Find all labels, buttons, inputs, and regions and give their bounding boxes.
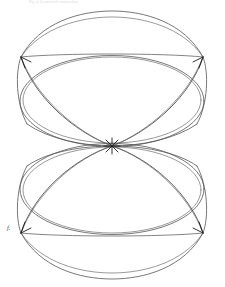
figure-page: Fig. 4. Geometrical construction (0, 0, 225, 287)
lower-left-petal-outer (21, 146, 112, 233)
lower-left-petal-inner (21, 146, 112, 233)
upper-crown-arc-inner (21, 17, 203, 57)
figure-strokes (17, 11, 206, 279)
lower-outer-ellipse-b (23, 147, 201, 233)
upper-right-petal-outer (112, 57, 203, 146)
upper-left-petal-outer (21, 57, 112, 146)
upper-left-petal-inner (21, 57, 112, 146)
lower-lobe-left-base (27, 146, 112, 166)
upper-right-petal-inner (112, 57, 203, 146)
lower-right-petal-outer (112, 146, 203, 233)
center-crossing-node (104, 138, 120, 154)
lower-crown-arc-outer (21, 233, 203, 279)
lower-right-petal-inner (112, 146, 203, 233)
upper-outer-ellipse-b (23, 57, 201, 143)
upper-crown-arc-outer (21, 11, 203, 57)
figure-point-label-f: f. (7, 224, 10, 232)
lower-lobe-right-base (112, 146, 197, 166)
geometric-figure (0, 0, 225, 287)
lower-crown-arc-inner (21, 233, 203, 273)
